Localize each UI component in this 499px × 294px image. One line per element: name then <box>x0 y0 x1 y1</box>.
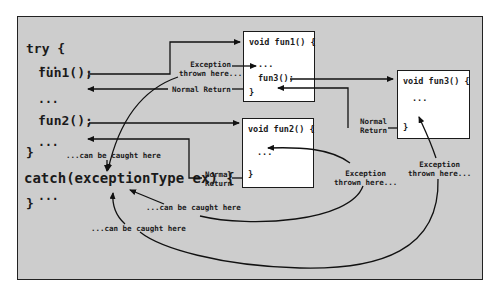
catch-close: } <box>26 198 34 210</box>
call-fun2: fun2(); <box>38 115 93 127</box>
fun3-close: } <box>403 122 408 132</box>
label-normal-return-fun1: Normal Return <box>172 85 231 94</box>
try-close: } <box>26 147 34 159</box>
catch-dots: ... <box>38 190 59 202</box>
fun2-signature: void fun2() { <box>248 124 315 134</box>
label-exception-fun2: Exception thrown here... <box>334 169 397 187</box>
fun3-box: void fun3() { ... } <box>397 70 470 139</box>
fun1-close: } <box>249 87 254 97</box>
fun3-signature: void fun3() { <box>403 76 470 86</box>
fun2-dots: ... <box>257 147 272 157</box>
fun1-dots: ... <box>258 59 273 69</box>
fun1-signature: void fun1() { <box>249 37 316 47</box>
call-fun1: fun1(); <box>38 67 93 79</box>
label-caught-here-3: ...can be caught here <box>91 224 186 233</box>
fun1-box: void fun1() { ... fun3(); } <box>243 31 315 102</box>
catch-line: catch(exceptionType ex) { <box>24 172 235 184</box>
fun2-close: } <box>248 169 253 179</box>
label-caught-here-2: ...can be caught here <box>146 203 241 212</box>
label-exception-fun1: Exception thrown here... <box>179 60 242 78</box>
label-normal-return-fun2: Normal Return <box>205 170 232 188</box>
label-normal-return-fun3: Normal Return <box>360 117 387 135</box>
try-dots-3: ... <box>38 136 59 148</box>
label-caught-here-1: ...can be caught here <box>66 151 161 160</box>
fun2-box: void fun2() { ... } <box>242 118 314 188</box>
fun3-dots: ... <box>412 93 427 103</box>
try-open: try { <box>26 43 65 55</box>
label-exception-fun3: Exception thrown here... <box>408 160 471 178</box>
try-dots-2: ... <box>38 93 59 105</box>
fun1-call-fun3: fun3(); <box>258 73 294 83</box>
